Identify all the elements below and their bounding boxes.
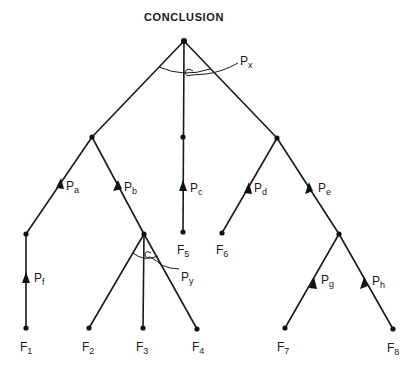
label-f2: F2 bbox=[82, 340, 94, 356]
tree-canvas: CONCLUSION bbox=[0, 0, 417, 367]
node-f4 bbox=[194, 326, 199, 331]
label-f3: F3 bbox=[136, 340, 148, 356]
node-lb bbox=[141, 231, 146, 236]
edge-root-left bbox=[92, 41, 184, 137]
node-f8 bbox=[390, 326, 395, 331]
label-pb: Pb bbox=[124, 180, 137, 196]
label-px: Px bbox=[240, 54, 253, 70]
label-pc: Pc bbox=[190, 181, 203, 197]
node-f5 bbox=[180, 229, 185, 234]
node-f3 bbox=[140, 325, 145, 330]
node-left bbox=[89, 134, 94, 139]
node-right bbox=[274, 135, 279, 140]
inference-tree-diagram: CONCLUSION bbox=[0, 0, 417, 367]
edge-f3 bbox=[143, 234, 144, 328]
label-pf: Pf bbox=[34, 271, 45, 287]
edge-f2 bbox=[89, 234, 144, 328]
label-f8: F8 bbox=[387, 341, 399, 357]
node-f7 bbox=[282, 325, 287, 330]
label-f6: F6 bbox=[216, 243, 228, 259]
edge-root-right bbox=[184, 41, 277, 138]
conclusion-title: CONCLUSION bbox=[144, 11, 224, 23]
arrow-pf-icon bbox=[22, 272, 30, 283]
label-ph: Ph bbox=[372, 274, 385, 290]
node-f6 bbox=[219, 230, 224, 235]
label-pe: Pe bbox=[318, 181, 331, 197]
node-conclusion bbox=[181, 38, 187, 44]
node-mid bbox=[180, 134, 185, 139]
node-lf bbox=[23, 231, 28, 236]
label-f7: F7 bbox=[277, 340, 289, 356]
node-f2 bbox=[86, 325, 91, 330]
label-pd: Pd bbox=[254, 181, 267, 197]
label-pa: Pa bbox=[66, 179, 79, 195]
label-f4: F4 bbox=[192, 340, 204, 356]
label-f1: F1 bbox=[20, 340, 32, 356]
label-py: Py bbox=[181, 270, 194, 286]
label-pg: Pg bbox=[321, 273, 334, 289]
node-f1 bbox=[23, 325, 28, 330]
node-re bbox=[336, 231, 341, 236]
label-f5: F5 bbox=[177, 243, 189, 259]
arrow-pc-icon bbox=[179, 180, 187, 191]
